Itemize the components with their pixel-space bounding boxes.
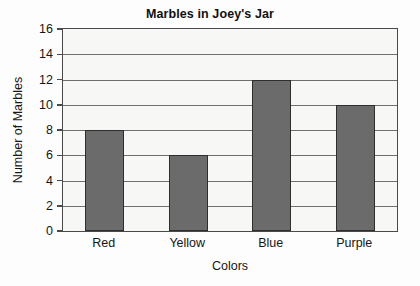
x-axis-tick-label: Purple bbox=[336, 236, 372, 250]
y-axis-tick-label: 10 bbox=[39, 98, 53, 112]
plot-area: 0246810121416 bbox=[62, 28, 398, 232]
y-axis-tick-label: 14 bbox=[39, 47, 53, 61]
x-axis-tick-label: Yellow bbox=[169, 236, 205, 250]
bar bbox=[252, 80, 291, 232]
y-axis-tick-label: 16 bbox=[39, 22, 53, 36]
y-axis-tick bbox=[57, 205, 63, 207]
x-axis-tick-label: Red bbox=[92, 236, 115, 250]
plot-inner: 0246810121416 bbox=[63, 29, 397, 231]
y-axis-tick-label: 0 bbox=[46, 224, 53, 238]
y-axis-tick-label: 4 bbox=[46, 174, 53, 188]
x-axis-tick-label: Blue bbox=[258, 236, 283, 250]
bar bbox=[85, 130, 124, 231]
y-axis-tick bbox=[57, 230, 63, 232]
bar bbox=[169, 155, 208, 231]
y-axis-tick bbox=[57, 129, 63, 131]
y-axis-tick-label: 12 bbox=[39, 73, 53, 87]
y-axis-tick bbox=[57, 28, 63, 30]
gridline bbox=[63, 54, 397, 55]
bar bbox=[336, 105, 375, 231]
y-axis-tick-label: 2 bbox=[46, 199, 53, 213]
y-axis-tick-label: 6 bbox=[46, 148, 53, 162]
bar-chart-figure: Marbles in Joey's Jar Number of Marbles … bbox=[0, 0, 420, 286]
y-axis-tick bbox=[57, 54, 63, 56]
y-axis-title: Number of Marbles bbox=[11, 77, 25, 183]
y-axis-tick bbox=[57, 180, 63, 182]
y-axis-tick bbox=[57, 104, 63, 106]
y-axis-tick bbox=[57, 79, 63, 81]
chart-title: Marbles in Joey's Jar bbox=[0, 7, 420, 21]
y-axis-tick-label: 8 bbox=[46, 123, 53, 137]
gridline bbox=[63, 80, 397, 81]
y-axis-title-container: Number of Marbles bbox=[8, 28, 28, 232]
x-axis-title: Colors bbox=[62, 259, 398, 273]
y-axis-tick bbox=[57, 155, 63, 157]
